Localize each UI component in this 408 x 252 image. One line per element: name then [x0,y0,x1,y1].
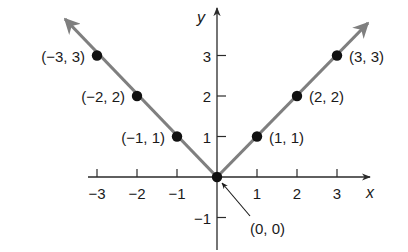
origin-annotation-arrow [222,183,250,216]
point-label: (−1, 1) [121,129,165,146]
x-axis-label: x [365,184,375,201]
y-tick-label: 1 [203,129,211,146]
point-label: (3, 3) [349,48,384,65]
data-point [92,50,102,60]
abs-value-graph: −3−2−1123 −1123 x y (−3, 3)(−2, 2)(−1, 1… [0,0,408,252]
x-tick-label: −1 [168,185,185,202]
data-points: (−3, 3)(−2, 2)(−1, 1)(0, 0)(1, 1)(2, 2)(… [41,48,384,238]
x-tick-label: 1 [253,185,261,202]
point-label: (−2, 2) [81,88,125,105]
right-ray [217,23,368,177]
point-label: (1, 1) [269,129,304,146]
x-tick-label: −3 [88,185,105,202]
data-point [252,131,262,141]
point-label: (2, 2) [309,88,344,105]
x-tick-label: 2 [293,185,301,202]
data-point [132,91,142,101]
y-ticks: −1123 [194,48,226,227]
point-label: (−3, 3) [41,48,85,65]
data-point [332,50,342,60]
point-label-origin: (0, 0) [250,220,285,237]
y-tick-label: 3 [203,48,211,65]
y-tick-label: −1 [194,210,211,227]
y-tick-label: 2 [203,88,211,105]
data-point [172,131,182,141]
data-point [212,172,222,182]
y-axis-label: y [196,9,206,26]
x-tick-label: −2 [128,185,145,202]
data-point [292,91,302,101]
x-tick-label: 3 [333,185,341,202]
